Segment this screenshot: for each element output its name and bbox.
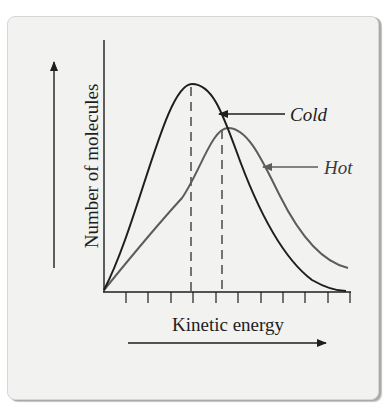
x-axis-ticks xyxy=(126,292,350,303)
x-axis-label: Kinetic energy xyxy=(172,314,285,335)
hot-label: Hot xyxy=(323,157,353,178)
hot-curve xyxy=(104,128,348,290)
maxwell-boltzmann-chart: Number of molecules Cold Hot Kinetic ene… xyxy=(0,0,384,409)
cold-label: Cold xyxy=(290,104,327,125)
y-axis-label: Number of molecules xyxy=(81,84,102,249)
